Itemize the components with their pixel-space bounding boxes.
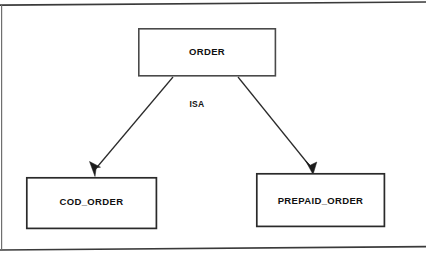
entity-prepaid-order[interactable]: PREPAID_ORDER [257, 174, 385, 227]
isa-edge-prepaid-order [238, 77, 317, 175]
entity-prepaid-order-label: PREPAID_ORDER [278, 195, 364, 206]
page-rule-bottom [0, 247, 426, 250]
isa-edge-cod-order-line [96, 77, 174, 169]
page-rule-top [0, 2, 426, 5]
diagram-page: ORDER ISA COD_ORDER PREPAID_ORDER [0, 0, 426, 258]
entity-order[interactable]: ORDER [139, 29, 276, 76]
entity-cod-order[interactable]: COD_ORDER [27, 178, 157, 229]
er-isa-diagram-canvas: ORDER ISA COD_ORDER PREPAID_ORDER [0, 0, 426, 258]
arrowhead-prepaid-order-icon [306, 161, 317, 175]
arrowhead-cod-order-icon [90, 162, 101, 177]
entity-order-label: ORDER [189, 46, 225, 57]
isa-edge-prepaid-order-line [238, 77, 311, 168]
isa-relationship-label: ISA [189, 99, 204, 109]
isa-edge-cod-order [90, 77, 174, 177]
entity-cod-order-label: COD_ORDER [60, 196, 124, 207]
